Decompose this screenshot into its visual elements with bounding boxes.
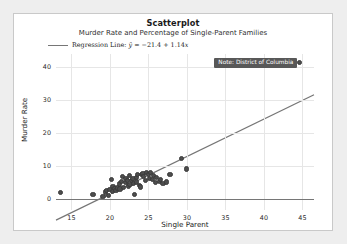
annotation-label: Note: District of Columbia: [214, 58, 297, 68]
screenshot-canvas: Scatterplot Murder Rate and Percentage o…: [0, 0, 347, 244]
scatter-point[interactable]: [164, 179, 169, 184]
y-tick-label: 20: [43, 129, 51, 137]
y-gridline: [56, 133, 314, 134]
legend-equation: = −21.4 + 1.14: [132, 41, 185, 49]
y-tick-label: 0: [47, 195, 51, 203]
legend-line-swatch: [48, 45, 68, 46]
legend-text: Regression Line:: [72, 41, 126, 49]
y-gridline: [56, 100, 314, 101]
legend-label: Regression Line: ŷ = −21.4 + 1.14x: [72, 41, 188, 49]
chart-subtitle: Murder Rate and Percentage of Single-Par…: [14, 29, 332, 37]
scatter-point[interactable]: [90, 192, 95, 197]
chart-title: Scatterplot: [14, 18, 332, 28]
legend: Regression Line: ŷ = −21.4 + 1.14x: [48, 40, 188, 50]
y-tick-label: 10: [43, 162, 51, 170]
legend-x-var: x: [185, 41, 189, 49]
scatter-point[interactable]: [179, 156, 184, 161]
scatter-point[interactable]: [109, 177, 114, 182]
x-axis-label: Single Parent: [56, 220, 314, 229]
y-tick-label: 30: [43, 96, 51, 104]
scatterplot-figure: Scatterplot Murder Rate and Percentage o…: [14, 14, 332, 230]
plot-area: 15202530354045010203040Note: District of…: [56, 54, 314, 210]
y-tick-label: 40: [43, 63, 51, 71]
scatter-point[interactable]: [138, 184, 143, 189]
zero-axis-line: [56, 199, 314, 200]
chart-card: Scatterplot Murder Rate and Percentage o…: [13, 13, 333, 231]
y-axis-label-wrap: Murder Rate: [30, 54, 42, 210]
y-axis-label: Murder Rate: [20, 98, 29, 142]
scatter-point[interactable]: [184, 166, 189, 171]
